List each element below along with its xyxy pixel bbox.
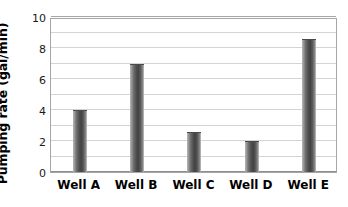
- gridline: [51, 16, 336, 17]
- y-axis-title: Pumping rate (gal/min): [2, 0, 24, 207]
- bar-slot: [166, 19, 223, 172]
- y-axis-tick-label: 0: [24, 168, 46, 179]
- bar[interactable]: [302, 39, 316, 172]
- bar[interactable]: [245, 141, 259, 172]
- bar[interactable]: [187, 132, 201, 172]
- bar-slot: [223, 19, 280, 172]
- bar[interactable]: [130, 64, 144, 173]
- x-axis-tick-labels: Well AWell BWell CWell DWell E: [50, 178, 337, 198]
- y-axis-tick-labels: 0246810: [24, 18, 46, 173]
- x-axis-tick-label: Well E: [288, 178, 330, 192]
- y-axis-tick-label: 6: [24, 75, 46, 86]
- x-axis-tick-label: Well D: [229, 178, 272, 192]
- y-axis-tick-label: 4: [24, 106, 46, 117]
- bar-series: [51, 19, 336, 172]
- bar-chart: Pumping rate (gal/min) 0246810 Well AWel…: [0, 0, 348, 207]
- y-axis-tick-label: 10: [24, 13, 46, 24]
- x-axis-tick-label: Well A: [57, 178, 100, 192]
- x-axis-tick-label: Well C: [172, 178, 214, 192]
- bar-slot: [281, 19, 338, 172]
- bar[interactable]: [73, 110, 87, 172]
- bar-slot: [108, 19, 165, 172]
- bar-slot: [51, 19, 108, 172]
- plot-area: [50, 18, 337, 173]
- x-axis-tick-label: Well B: [115, 178, 158, 192]
- y-axis-tick-label: 2: [24, 137, 46, 148]
- y-axis-tick-label: 8: [24, 44, 46, 55]
